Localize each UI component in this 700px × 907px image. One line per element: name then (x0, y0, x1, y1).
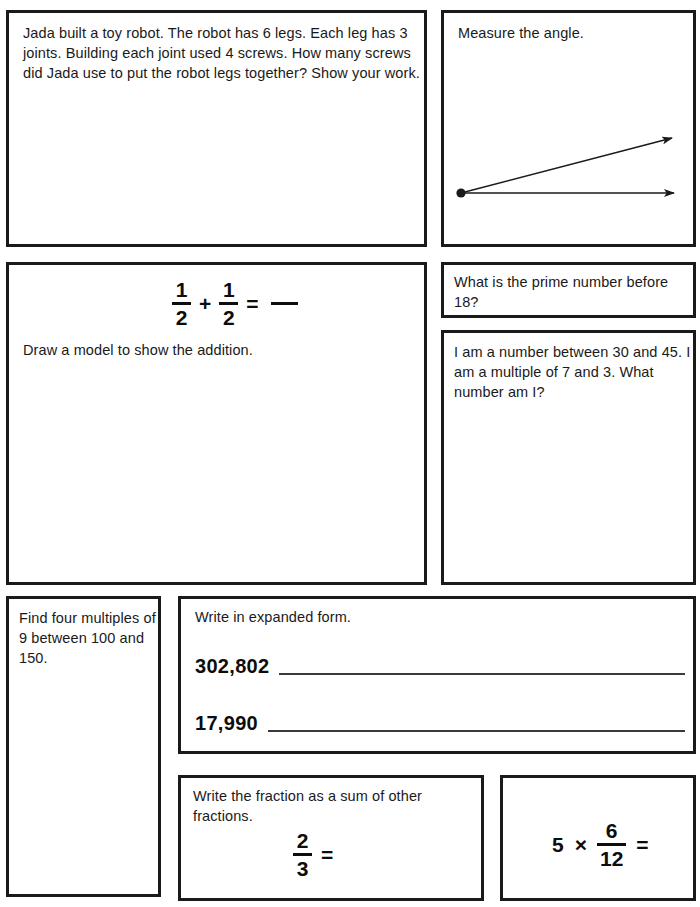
problem-box-multiply-fraction[interactable]: 5 × 6 12 = (500, 775, 696, 901)
find-multiples-text: Find four multiples of 9 between 100 and… (19, 608, 159, 668)
fraction-addition-equation: 1 2 + 1 2 = (172, 279, 298, 328)
problem-box-measure-angle[interactable]: Measure the angle. (441, 10, 696, 247)
fraction-two-thirds: 2 3 (293, 830, 312, 879)
multiply-fraction-equation: 5 × 6 12 = (551, 820, 650, 869)
prime-number-text: What is the prime number before 18? (454, 272, 689, 312)
fraction-as-sum-equation: 2 3 = (293, 830, 334, 879)
problem-box-find-multiples[interactable]: Find four multiples of 9 between 100 and… (6, 596, 161, 897)
number-riddle-text: I am a number between 30 and 45. I am a … (454, 342, 692, 402)
equals-sign: = (320, 843, 334, 867)
fraction-one-half-left: 1 2 (172, 279, 191, 328)
plus-operator: + (198, 292, 212, 316)
denominator: 3 (294, 856, 312, 879)
expanded-form-row: 302,802 (195, 655, 685, 678)
problem-box-number-riddle[interactable]: I am a number between 30 and 45. I am a … (441, 330, 696, 585)
draw-model-instruction: Draw a model to show the addition. (23, 340, 421, 360)
fraction-six-twelfths: 6 12 (597, 820, 626, 869)
expanded-form-row: 17,990 (195, 712, 685, 735)
equals-sign: = (245, 292, 259, 316)
word-problem-text: Jada built a toy robot. The robot has 6 … (23, 23, 421, 83)
fraction-one-half-right: 1 2 (219, 279, 238, 328)
answer-blank-dash[interactable] (271, 302, 298, 305)
denominator: 12 (597, 846, 626, 869)
expanded-form-number: 17,990 (195, 712, 258, 735)
denominator: 2 (220, 305, 238, 328)
numerator: 6 (603, 820, 621, 843)
problem-box-expanded-form[interactable]: Write in expanded form. 302,802 17,990 (178, 596, 696, 754)
whole-number: 5 (551, 833, 565, 857)
problem-box-word-problem[interactable]: Jada built a toy robot. The robot has 6 … (6, 10, 427, 247)
numerator: 1 (173, 279, 191, 302)
equals-sign: = (635, 833, 649, 857)
fraction-as-sum-prompt: Write the fraction as a sum of other fra… (193, 786, 473, 826)
expanded-form-number: 302,802 (195, 655, 269, 678)
numerator: 1 (220, 279, 238, 302)
numerator: 2 (294, 830, 312, 853)
denominator: 2 (173, 305, 191, 328)
expanded-form-answer-line[interactable] (279, 673, 685, 675)
problem-box-fraction-as-sum[interactable]: Write the fraction as a sum of other fra… (178, 775, 484, 901)
multiplication-operator: × (574, 833, 588, 857)
expanded-form-answer-line[interactable] (268, 730, 685, 732)
problem-box-fraction-addition[interactable]: 1 2 + 1 2 = Draw a model to show the add… (6, 262, 427, 585)
angle-figure-icon (444, 13, 699, 250)
expanded-form-prompt: Write in expanded form. (195, 607, 675, 627)
problem-box-prime-number[interactable]: What is the prime number before 18? (441, 262, 696, 318)
worksheet-page: Jada built a toy robot. The robot has 6 … (0, 0, 700, 907)
